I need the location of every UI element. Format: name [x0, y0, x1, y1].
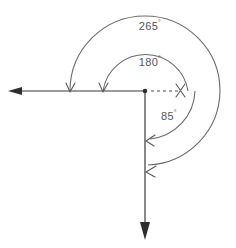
label-85-value: 85: [161, 110, 174, 122]
angle-diagram-svg: 265° 180° 85°: [0, 0, 236, 248]
arrowhead-265-on-vertical-icon: [146, 166, 156, 177]
horizontal-left-arrowhead-icon: [8, 87, 22, 95]
vertex-point: [143, 89, 148, 94]
label-85-degree-symbol: °: [174, 109, 177, 116]
label-265-degree-symbol: °: [158, 19, 161, 26]
label-180-degree-symbol: °: [158, 55, 161, 62]
label-265: 265°: [139, 19, 161, 32]
label-265-value: 265: [139, 20, 158, 32]
arrowhead-85-on-vertical-icon: [146, 135, 155, 146]
arc-265-lower-path: [148, 91, 220, 165]
label-180-value: 180: [139, 56, 158, 68]
vertical-down-arrowhead-icon: [140, 222, 150, 240]
label-180: 180°: [139, 55, 161, 68]
label-85: 85°: [161, 109, 177, 122]
angle-diagram-canvas: 265° 180° 85°: [0, 0, 236, 248]
